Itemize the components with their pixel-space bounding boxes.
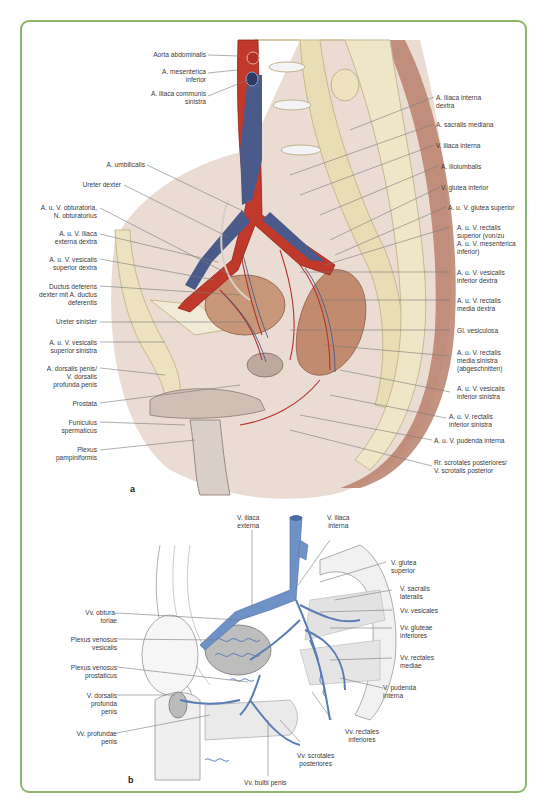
label-a-iliaca-interna-dextra: A. iliaca interna dextra bbox=[436, 94, 481, 110]
label-a-iliolumbalis: A. iliolumbalis bbox=[441, 163, 481, 171]
label-rectalis-media-dextra: A. u. V. rectalis media dextra bbox=[457, 297, 501, 313]
label-v-iliaca-interna: V. iliaca interna bbox=[327, 514, 349, 530]
label-ureter-sinister: Ureter sinister bbox=[56, 318, 97, 326]
label-pudenda-interna: A. u. V. pudenda interna bbox=[434, 437, 505, 445]
label-vesicalis-superior-sinistra: A. u. V. vesicalis superior sinistra bbox=[49, 339, 97, 355]
label-vesicalis-inferior-dextra: A. u. V. vesicalis inferior dextra bbox=[457, 269, 505, 285]
label-v-dorsalis-profunda-penis: V. dorsalis profunda penis bbox=[87, 692, 117, 716]
label-vv-rectales-inferiores: Vv. rectales inferiores bbox=[345, 728, 379, 744]
label-v-glutea-inferior: V. glutea inferior bbox=[441, 184, 488, 192]
label-gl-vesiculosa: Gl. vesiculosa bbox=[457, 327, 498, 335]
label-a-sacralis-mediana: A. sacralis mediana bbox=[436, 121, 494, 129]
label-obturatoria: A. u. V. obturatoria, N. obturatorius bbox=[41, 204, 97, 220]
label-v-pudenda-interna: V. pudenda interna bbox=[383, 684, 416, 700]
label-prostata: Prostata bbox=[72, 400, 97, 408]
label-vv-scrotales-posteriores: Vv. scrotales posteriores bbox=[297, 752, 334, 768]
label-rr-scrotales: Rr. scrotales posteriores/ V. scrotalis … bbox=[434, 459, 507, 475]
panel-b-letter: b bbox=[128, 775, 134, 785]
label-vesicalis-superior-dextra: A. u. V. vesicalis superior dextra bbox=[49, 256, 97, 272]
label-vv-gluteae-inferiores: Vv. gluteae inferiores bbox=[400, 624, 433, 640]
label-rectalis-superior: A. u. V. rectalis superior (von/zu A. u.… bbox=[457, 224, 516, 256]
label-v-iliaca-interna: V. iliaca interna bbox=[436, 142, 480, 150]
label-dorsalis-penis: A. dorsalis penis/ V. dorsalis profunda … bbox=[47, 365, 97, 389]
label-a-umbilicalis: A. umbilicalis bbox=[107, 161, 145, 169]
panel-a-letter: a bbox=[130, 484, 135, 494]
label-funiculus-spermaticus: Funiculus spermaticus bbox=[61, 419, 97, 435]
label-iliaca-externa-dextra: A. u. V. iliaca externa dextra bbox=[55, 230, 97, 246]
label-plexus-venosus-vesicalis: Plexus venosus vesicalis bbox=[71, 636, 117, 652]
label-glutea-superior: A. u. V. glutea superior bbox=[448, 204, 514, 212]
label-v-sacralis-lateralis: V. sacralis lateralis bbox=[400, 585, 430, 601]
label-v-glutea-superior: V. glutea superior bbox=[391, 559, 416, 575]
label-a-mesenterica-inferior: A. mesenterica inferior bbox=[162, 68, 206, 84]
label-vv-bulbi-penis: Vv. bulbi penis bbox=[244, 779, 286, 787]
label-aorta-abdominalis: Aorta abdominalis bbox=[153, 51, 206, 59]
label-rectalis-media-sinistra: A. u. V. rectalis media sinistra (abgesc… bbox=[457, 349, 502, 373]
label-plexus-venosus-prostaticus: Plexus venosus prostaticus bbox=[71, 664, 117, 680]
label-a-iliaca-communis-sinistra: A. iliaca communis sinistra bbox=[151, 90, 206, 106]
label-ureter-dexter: Ureter dexter bbox=[83, 181, 121, 189]
label-plexus-pampiniformis: Plexus pampiniformis bbox=[56, 446, 97, 462]
label-vv-rectales-mediae: Vv. rectales mediae bbox=[400, 654, 434, 670]
label-vv-vesicales: Vv. vesicales bbox=[400, 607, 438, 615]
label-v-iliaca-externa: V. iliaca externa bbox=[237, 514, 259, 530]
label-vv-obturatoriae: Vv. obtura- toriae bbox=[85, 609, 117, 625]
label-vesicalis-inferior-sinistra: A. u. V. vesicalis inferior sinistra bbox=[457, 385, 505, 401]
label-ductus-deferens: Ductus deferens dexter mit A. ductus def… bbox=[39, 283, 97, 307]
label-rectalis-inferior-sinistra: A. u. V. rectalis inferior sinistra bbox=[449, 413, 493, 429]
label-vv-profundae-penis: Vv. profundae penis bbox=[76, 730, 117, 746]
